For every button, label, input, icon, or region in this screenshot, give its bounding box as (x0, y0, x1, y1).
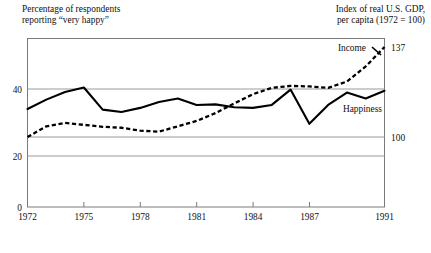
xtick-label-1984: 1984 (244, 212, 263, 222)
xtick-label-1978: 1978 (131, 212, 150, 222)
ytick-label-137: 137 (391, 43, 405, 53)
figure-container: Percentage of respondents reporting “ver… (0, 0, 431, 253)
xtick-label-1987: 1987 (300, 212, 319, 222)
xtick-label-1991: 1991 (375, 212, 394, 222)
ytick-label-0: 0 (17, 203, 22, 213)
series-line-happiness (28, 88, 385, 124)
xtick-label-1975: 1975 (75, 212, 94, 222)
series-label-income: Income (338, 43, 366, 53)
chart-svg: 0 20 40 137 100 1972 1975 1978 1981 1984… (0, 0, 431, 253)
ytick-label-40: 40 (13, 85, 23, 95)
ytick-label-100: 100 (391, 133, 405, 143)
series-label-happiness: Happiness (343, 104, 382, 114)
xtick-label-1981: 1981 (187, 212, 206, 222)
source-note-clipped (22, 247, 431, 253)
xtick-label-1972: 1972 (18, 212, 37, 222)
ytick-label-20: 20 (13, 152, 23, 162)
plot-frame (28, 39, 385, 208)
series-line-income (28, 47, 385, 137)
